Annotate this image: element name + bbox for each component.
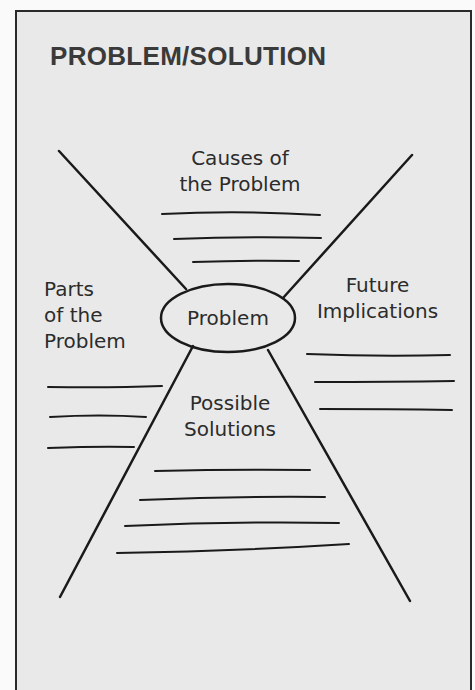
parts-heading: Parts of the Problem [44, 276, 144, 354]
future-heading-line-2: Implications [300, 298, 455, 324]
parts-heading-line-1: Parts [44, 276, 144, 302]
solutions-blank-line-3 [125, 522, 339, 526]
parts-blank-line-1 [48, 386, 162, 387]
causes-blank-line-3 [193, 261, 299, 262]
causes-blank-line-1 [162, 212, 320, 215]
future-blank-line-3 [320, 409, 452, 410]
parts-heading-line-3: Problem [44, 328, 144, 354]
solutions-blank-line-4 [117, 544, 349, 553]
solutions-blank-line-2 [140, 497, 325, 500]
future-blank-line-2 [315, 381, 454, 382]
causes-heading: Causes of the Problem [150, 145, 330, 197]
parts-blank-line-2 [50, 416, 146, 418]
causes-heading-line-2: the Problem [150, 171, 330, 197]
lower-right-divider [268, 350, 410, 601]
future-blank-line-1 [307, 354, 450, 356]
solutions-blank-line-1 [155, 470, 310, 471]
solutions-heading-line-1: Possible [165, 390, 295, 416]
causes-heading-line-1: Causes of [150, 145, 330, 171]
future-heading: Future Implications [300, 272, 455, 324]
solutions-heading-line-2: Solutions [165, 416, 295, 442]
causes-blank-line-2 [174, 237, 321, 239]
parts-heading-line-2: of the [44, 302, 144, 328]
center-problem-label: Problem [161, 305, 295, 331]
future-heading-line-1: Future [300, 272, 455, 298]
parts-blank-line-3 [48, 447, 134, 448]
solutions-heading: Possible Solutions [165, 390, 295, 442]
